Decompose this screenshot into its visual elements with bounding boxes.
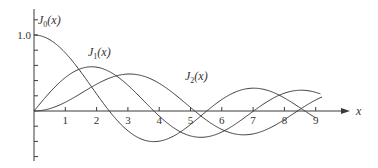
x-tick-label: 4 (156, 114, 162, 126)
series-label: J0(x) (38, 13, 61, 29)
x-tick-label: 7 (250, 114, 256, 126)
x-tick-label: 1 (63, 114, 69, 126)
series-label: J1(x) (88, 45, 111, 61)
bessel-functions-chart: 1.0x123456789J0(x)J1(x)J2(x) (0, 0, 378, 168)
x-axis-arrow-icon (341, 108, 350, 114)
x-tick-label: 5 (188, 114, 194, 126)
x-tick-label: 6 (219, 114, 225, 126)
axes (34, 9, 350, 161)
y-tick-label: 1.0 (17, 29, 31, 41)
x-axis-label: x (355, 104, 362, 118)
x-tick-label: 3 (125, 114, 131, 126)
curve-j1x (34, 67, 320, 138)
labels: 1.0x123456789J0(x)J1(x)J2(x) (17, 13, 362, 126)
x-tick-label: 9 (313, 114, 319, 126)
curve-j2x (34, 74, 322, 135)
x-tick-label: 2 (94, 114, 100, 126)
curves (34, 35, 322, 142)
x-tick-label: 8 (282, 114, 288, 126)
series-label: J2(x) (185, 69, 208, 85)
